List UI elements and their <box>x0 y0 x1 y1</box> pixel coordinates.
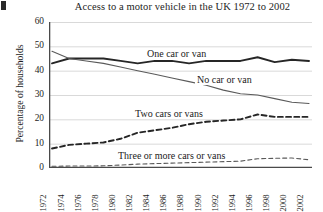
x-tick-label: 1998 <box>263 195 272 212</box>
plot-area <box>49 22 312 168</box>
y-tick-label: 10 <box>14 139 44 148</box>
series-inline-label-3: Two cars or vans <box>133 108 205 119</box>
page-edge-mark <box>1 1 6 10</box>
x-tick-label: 1972 <box>40 195 49 212</box>
x-tick-label: 2002 <box>297 195 306 212</box>
x-tick-label: 1986 <box>160 195 169 212</box>
plot-svg <box>49 22 312 168</box>
y-tick-label: 30 <box>14 90 44 99</box>
x-tick-label: 1974 <box>57 195 66 212</box>
y-tick-label: 0 <box>14 163 44 172</box>
chart-title: Access to a motor vehicle in the UK 1972… <box>50 1 315 12</box>
series-inline-label-1: One car or van <box>145 48 208 59</box>
y-tick-label: 20 <box>14 114 44 123</box>
x-tick-label: 1992 <box>211 195 220 212</box>
chart-figure: Access to a motor vehicle in the UK 1972… <box>0 0 323 212</box>
y-tick-label: 50 <box>14 41 44 50</box>
y-axis-ticks: 0102030405060 <box>14 0 44 212</box>
gridlines <box>49 23 312 169</box>
y-tick-label: 40 <box>14 66 44 75</box>
x-tick-label: 2000 <box>280 195 289 212</box>
x-tick-label: 1984 <box>143 195 152 212</box>
x-tick-label: 1980 <box>108 195 117 212</box>
series-inline-label-4: Three or more cars or vans <box>116 150 227 161</box>
x-tick-label: 1990 <box>194 195 203 212</box>
x-axis-ticks: 1972197419761978198019821984198619881990… <box>49 172 319 212</box>
y-tick-label: 60 <box>14 17 44 26</box>
x-tick-label: 1982 <box>125 195 134 212</box>
x-tick-label: 1988 <box>177 195 186 212</box>
x-tick-label: 1994 <box>228 195 237 212</box>
series-inline-label-2: No car or van <box>195 74 254 85</box>
x-tick-label: 1996 <box>245 195 254 212</box>
x-tick-label: 1978 <box>91 195 100 212</box>
x-tick-label: 1976 <box>74 195 83 212</box>
